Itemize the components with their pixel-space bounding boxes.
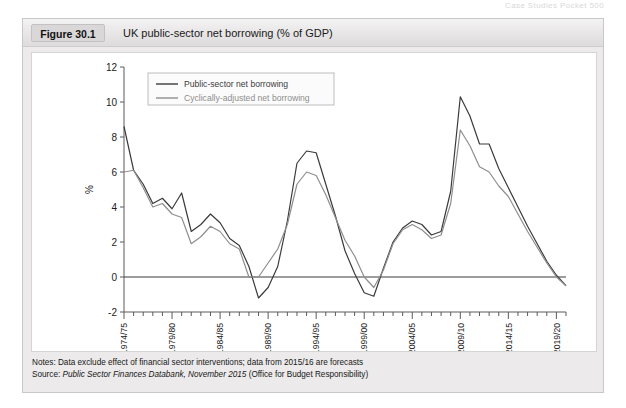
notes-text: Data exclude effect of financial sector … [56,358,364,367]
source-tail: (Office for Budget Responsibility) [246,370,368,379]
x-tick-label: 2009/10 [456,323,466,351]
figure-number-badge: Figure 30.1 [31,24,105,42]
series-line [124,97,566,298]
y-tick-label: 4 [111,202,117,213]
x-tick-label: 1974/75 [119,323,129,351]
y-tick-label: 8 [111,132,117,143]
chart-panel: -2024681012%1974/751979/801984/851989/90… [31,52,597,352]
series-line [124,130,566,288]
y-tick-label: 2 [111,237,117,248]
x-tick-label: 1994/95 [311,323,321,351]
y-tick-label: -2 [108,307,117,318]
figure-caption: UK public-sector net borrowing (% of GDP… [123,25,333,41]
y-tick-label: 10 [106,97,118,108]
y-tick-label: 6 [111,167,117,178]
x-tick-label: 1984/85 [215,323,225,351]
x-tick-label: 1999/00 [359,323,369,351]
figure-notes: Notes: Data exclude effect of financial … [32,357,592,380]
x-tick-label: 1989/90 [263,323,273,351]
notes-line: Notes: Data exclude effect of financial … [32,357,592,369]
x-tick-label: 1979/80 [167,323,177,351]
y-axis-title: % [84,185,95,194]
source-line: Source: Public Sector Finances Databank,… [32,369,592,381]
page-running-header: Case Studies Pocket 500 [0,0,626,14]
y-tick-label: 0 [111,272,117,283]
x-tick-label: 2019/20 [552,323,562,351]
x-tick-label: 2014/15 [504,323,514,351]
figure-container: Figure 30.1 UK public-sector net borrowi… [22,18,604,393]
legend-label: Cyclically-adjusted net borrowing [184,93,310,103]
y-tick-label: 12 [106,62,118,73]
line-chart: -2024681012%1974/751979/801984/851989/90… [32,53,596,351]
legend-label: Public-sector net borrowing [184,79,288,89]
notes-label: Notes: [32,358,56,367]
x-tick-label: 2004/05 [407,323,417,351]
source-title: Public Sector Finances Databank, Novembe… [63,370,247,379]
source-label: Source: [32,370,60,379]
figure-title-bar: Figure 30.1 UK public-sector net borrowi… [23,19,603,47]
